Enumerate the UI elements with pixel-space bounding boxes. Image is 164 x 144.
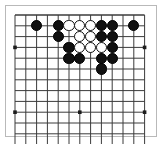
black-stone[interactable] [107, 42, 118, 53]
black-stone[interactable] [107, 20, 118, 31]
black-stone[interactable] [53, 20, 64, 31]
black-stone[interactable] [107, 31, 118, 42]
black-stone[interactable] [63, 53, 74, 64]
white-stone[interactable] [63, 20, 74, 31]
white-stone[interactable] [85, 20, 96, 31]
black-stone[interactable] [53, 31, 64, 42]
black-stone[interactable] [128, 20, 139, 31]
black-stone[interactable] [96, 53, 107, 64]
black-stone[interactable] [107, 53, 118, 64]
black-stone[interactable] [96, 20, 107, 31]
white-stone[interactable] [85, 42, 96, 53]
white-stone[interactable] [74, 42, 85, 53]
white-stone[interactable] [74, 31, 85, 42]
black-stone[interactable] [31, 20, 42, 31]
black-stone[interactable] [96, 63, 107, 74]
black-stone[interactable] [63, 42, 74, 53]
black-stone[interactable] [96, 31, 107, 42]
white-stone[interactable] [96, 42, 107, 53]
stone-layer [0, 0, 164, 144]
white-stone[interactable] [74, 20, 85, 31]
go-board-figure [0, 0, 164, 144]
white-stone[interactable] [85, 31, 96, 42]
black-stone[interactable] [74, 53, 85, 64]
